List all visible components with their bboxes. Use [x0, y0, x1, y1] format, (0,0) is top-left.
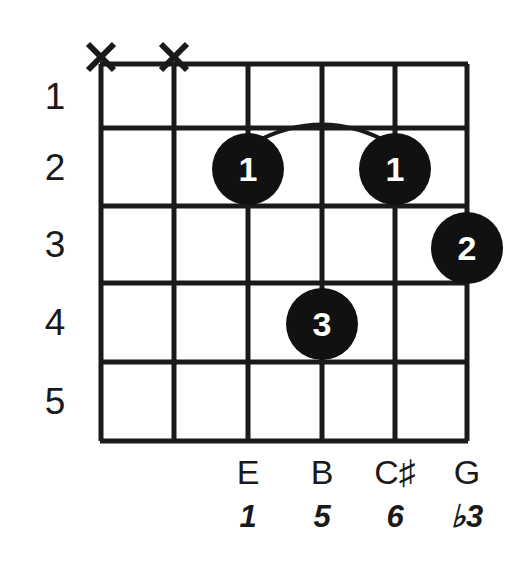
- finger-dot-string1-fret3[interactable]: [431, 212, 503, 284]
- fret-number-1: 1: [32, 78, 78, 115]
- chord-diagram: 1 1 2 3 1 2 3 4 5 E B C♯ G 1 5 6 ♭3: [0, 0, 522, 565]
- fret-number-5: 5: [32, 383, 78, 420]
- fret-number-2: 2: [32, 149, 78, 186]
- finger-dot-string4-fret2[interactable]: [212, 133, 284, 205]
- note-name-string-1: G: [419, 455, 515, 489]
- fret-number-4: 4: [32, 304, 78, 341]
- finger-dot-string2-fret2[interactable]: [359, 133, 431, 205]
- finger-dot-string3-fret4[interactable]: [286, 288, 358, 360]
- fret-number-3: 3: [32, 226, 78, 263]
- interval-string-1: ♭3: [419, 501, 515, 532]
